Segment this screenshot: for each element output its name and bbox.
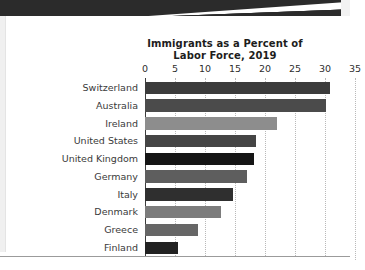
bar-germany <box>145 170 247 183</box>
bar-category-label: Switzerland <box>28 82 138 93</box>
bar-category-label: Germany <box>28 171 138 182</box>
banner-right-cap <box>341 0 350 16</box>
x-tick-label-25: 25 <box>289 63 301 74</box>
banner-diagonal-sliver <box>119 0 350 16</box>
bar-italy <box>145 188 233 201</box>
bar-row: Ireland <box>40 116 365 134</box>
bar-row: Greece <box>40 222 365 240</box>
bar-greece <box>145 224 198 237</box>
x-tick-label-35: 35 <box>349 63 361 74</box>
bar-united-kingdom <box>145 153 254 166</box>
bar-switzerland <box>145 82 330 95</box>
bar-category-label: Australia <box>28 100 138 111</box>
page-left-edge <box>0 16 6 252</box>
bar-denmark <box>145 206 221 219</box>
bar-row: Switzerland <box>40 80 365 98</box>
bar-category-label: United Kingdom <box>28 153 138 164</box>
x-tick-label-10: 10 <box>199 63 211 74</box>
bar-category-label: Ireland <box>28 118 138 129</box>
x-tick-label-0: 0 <box>142 63 148 74</box>
bar-row: United States <box>40 133 365 151</box>
bar-chart: Immigrants as a Percent of Labor Force, … <box>40 32 365 270</box>
bar-finland <box>145 242 178 255</box>
bar-row: United Kingdom <box>40 151 365 169</box>
plot-area: 05101520253035 SwitzerlandAustraliaIrela… <box>40 32 365 270</box>
x-tick-label-30: 30 <box>319 63 331 74</box>
bar-series: SwitzerlandAustraliaIrelandUnited States… <box>40 80 365 258</box>
x-tick-label-15: 15 <box>229 63 241 74</box>
bar-category-label: Italy <box>28 189 138 200</box>
bottom-margin <box>0 257 350 270</box>
x-tick-label-5: 5 <box>172 63 178 74</box>
bar-row: Italy <box>40 187 365 205</box>
bar-row: Australia <box>40 98 365 116</box>
x-tick-label-20: 20 <box>259 63 271 74</box>
bar-row: Denmark <box>40 204 365 222</box>
bar-category-label: Denmark <box>28 206 138 217</box>
bar-category-label: Finland <box>28 242 138 253</box>
bar-row: Finland <box>40 240 365 258</box>
bar-australia <box>145 99 326 112</box>
bar-category-label: Greece <box>28 224 138 235</box>
x-axis-tick-labels: 05101520253035 <box>40 63 365 75</box>
top-banner <box>0 0 350 16</box>
bar-united-states <box>145 135 256 148</box>
bar-ireland <box>145 117 277 130</box>
bar-row: Germany <box>40 169 365 187</box>
bar-category-label: United States <box>28 135 138 146</box>
